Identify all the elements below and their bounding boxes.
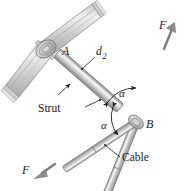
label-point-a: A — [61, 44, 70, 58]
leader-strut — [85, 100, 100, 107]
label-dimension-d2-subscript: 2 — [103, 52, 107, 61]
label-dimension-d2-base: d — [96, 45, 102, 57]
label-force-upper: F — [158, 18, 167, 32]
label-force-lower: F — [21, 163, 30, 177]
label-angle-lower: α — [101, 119, 107, 131]
leader-d2 — [82, 57, 95, 69]
diagram-canvas: A B d 2 Strut Cable α α F F — [0, 0, 192, 191]
label-point-b: B — [146, 117, 154, 131]
label-angle-upper: α — [119, 87, 125, 99]
leader-strut-dimension — [58, 84, 70, 95]
figure-root: A B d 2 Strut Cable α α F F — [0, 0, 192, 191]
force-arrow-lower — [35, 164, 56, 179]
strut-member — [53, 49, 123, 113]
label-cable: Cable — [122, 151, 149, 163]
leader-cable — [105, 145, 120, 157]
label-strut: Strut — [38, 102, 61, 114]
